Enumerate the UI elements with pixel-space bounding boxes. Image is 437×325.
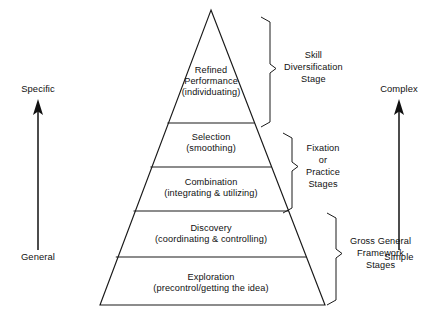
tier-title: Discovery: [155, 223, 267, 234]
bracket-label-skill-diversification: Skill Diversification Stage: [284, 50, 343, 86]
tier-subtitle: (smoothing): [186, 143, 236, 154]
bracket-label-line4: Stages: [306, 179, 340, 191]
tier-label-refined-performance: Refined Performance (individuating): [182, 65, 241, 99]
bracket-gross-general-shape: [327, 213, 342, 305]
bracket-label-line3: Practice: [306, 167, 340, 179]
tier-title: Selection: [186, 132, 236, 143]
pyramid-diagram: Refined Performance (individuating) Sele…: [0, 0, 437, 325]
bracket-label-line1: Gross General: [350, 236, 411, 248]
tier-subtitle: (individuating): [182, 87, 241, 98]
tier-label-selection: Selection (smoothing): [186, 132, 236, 154]
tier-label-combination: Combination (integrating & utilizing): [164, 177, 257, 199]
bracket-label-line1: Fixation: [306, 143, 340, 155]
tier-title-line1: Refined: [182, 65, 241, 76]
bracket-skill-diversification-shape: [261, 17, 276, 127]
bracket-label-line2: Diversification: [284, 62, 343, 74]
axis-label-specific: Specific: [21, 83, 55, 94]
tier-label-discovery: Discovery (coordinating & controlling): [155, 223, 267, 245]
tier-subtitle: (precontrol/getting the idea): [153, 283, 268, 294]
tier-title-line2: Performance: [182, 76, 241, 87]
tier-title: Exploration: [153, 272, 268, 283]
bracket-label-line1: Skill: [284, 50, 343, 62]
axis-label-general: General: [21, 251, 55, 262]
bracket-label-line3: Stage: [284, 74, 343, 86]
tier-subtitle: (coordinating & controlling): [155, 234, 267, 245]
tier-title: Combination: [164, 177, 257, 188]
axis-label-complex: Complex: [380, 83, 418, 94]
bracket-label-line2: or: [306, 155, 340, 167]
bracket-label-fixation-practice: Fixation or Practice Stages: [306, 143, 340, 191]
tier-label-exploration: Exploration (precontrol/getting the idea…: [153, 272, 268, 294]
axis-label-simple: Simple: [384, 251, 413, 262]
tier-subtitle: (integrating & utilizing): [164, 188, 257, 199]
